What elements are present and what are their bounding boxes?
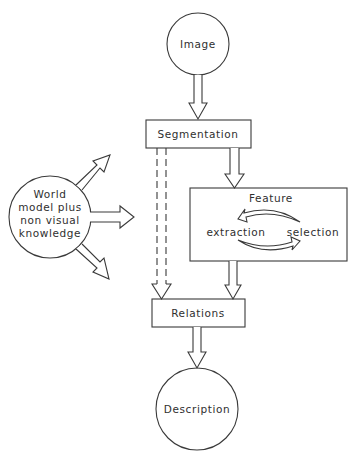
segmentation-label: Segmentation bbox=[158, 128, 239, 140]
curved-arrow-selection-to-extraction bbox=[238, 209, 300, 222]
arrow-segmentation-to-feature bbox=[225, 148, 244, 188]
arrow-feature-to-relations bbox=[225, 261, 241, 299]
arrow-world-model-down-right bbox=[76, 244, 109, 279]
dashed-arrow-segmentation-to-relations bbox=[152, 148, 171, 299]
image-node: Image bbox=[167, 13, 229, 75]
relations-node: Relations bbox=[152, 299, 245, 327]
curved-arrow-extraction-to-selection bbox=[238, 237, 300, 250]
image-label: Image bbox=[180, 38, 216, 50]
selection-label: selection bbox=[287, 226, 340, 238]
dashed-arrow-head bbox=[152, 284, 171, 299]
world-model-line-2: model plus bbox=[18, 201, 82, 213]
flow-diagram: Image Segmentation Feature extraction se… bbox=[0, 0, 358, 460]
description-node: Description bbox=[156, 368, 238, 450]
arrow-image-to-segmentation bbox=[189, 75, 207, 119]
description-label: Description bbox=[164, 403, 230, 415]
arrow-relations-to-description bbox=[188, 327, 206, 368]
extraction-label: extraction bbox=[206, 226, 265, 238]
world-model-node: World model plus non visual knowledge bbox=[9, 176, 91, 258]
feature-label: Feature bbox=[249, 192, 293, 204]
feature-node: Feature extraction selection bbox=[190, 188, 347, 261]
arrow-world-model-right bbox=[90, 206, 134, 228]
relations-label: Relations bbox=[171, 307, 225, 319]
world-model-line-4: knowledge bbox=[19, 227, 81, 239]
world-model-line-1: World bbox=[33, 188, 66, 200]
world-model-line-3: non visual bbox=[20, 214, 80, 226]
segmentation-node: Segmentation bbox=[146, 120, 251, 148]
arrow-world-model-up-right bbox=[76, 155, 110, 190]
